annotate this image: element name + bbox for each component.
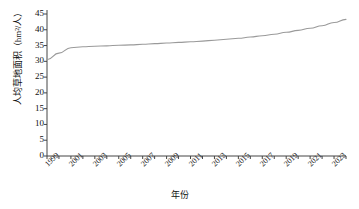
axis-ticks — [44, 14, 346, 159]
axes — [47, 10, 346, 156]
plot-area — [0, 0, 359, 209]
data-series-line — [47, 19, 346, 59]
chart-container: 人均草地面积（hm²/人） 年份 051015202530354045 1999… — [0, 0, 359, 209]
